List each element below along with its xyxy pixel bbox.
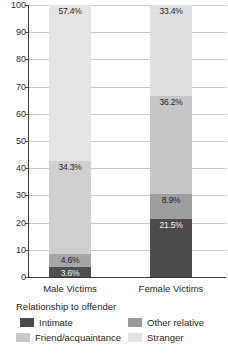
legend-label: Friend/acquaintance — [35, 332, 121, 343]
bar-segment-value-label: 34.3% — [49, 163, 91, 172]
y-tick-label: 80 — [0, 55, 26, 64]
bar-segment[interactable]: 57.4% — [49, 5, 91, 161]
bar-segment-value-label: 57.4% — [49, 7, 91, 16]
bar-segment[interactable]: 36.2% — [150, 96, 192, 194]
bar-segment[interactable]: 34.3% — [49, 161, 91, 254]
plot-area: 1009080706050403020100 57.4%34.3%4.6%3.6… — [0, 0, 228, 282]
y-tick-label: 10 — [0, 245, 26, 254]
legend-title: Relationship to offender — [16, 301, 224, 313]
legend-item[interactable]: Stranger — [128, 331, 183, 343]
y-tick-label: 100 — [0, 1, 26, 10]
bar-segment-value-label: 8.9% — [150, 196, 192, 205]
x-axis-category-labels: Male Victims Female Victims — [29, 283, 226, 297]
bars-layer: 57.4%34.3%4.6%3.6% 33.4%36.2%8.9%21.5% — [29, 5, 226, 277]
bar-segment[interactable]: 21.5% — [150, 219, 192, 277]
category-label-female: Female Victims — [126, 283, 216, 295]
legend-item[interactable]: Friend/acquaintance — [16, 331, 121, 343]
y-tick-label: 40 — [0, 164, 26, 173]
bar-segment[interactable]: 8.9% — [150, 194, 192, 218]
bar-female-victims[interactable]: 33.4%36.2%8.9%21.5% — [150, 5, 192, 277]
bar-segment-value-label: 3.6% — [49, 269, 91, 278]
bar-segment[interactable]: 4.6% — [49, 254, 91, 267]
legend-item[interactable]: Other relative — [128, 316, 204, 328]
bar-segment[interactable]: 33.4% — [150, 5, 192, 96]
legend-label: Stranger — [147, 332, 183, 343]
y-tick-label: 0 — [0, 273, 26, 282]
y-tick-label: 90 — [0, 28, 26, 37]
category-label-male: Male Victims — [25, 283, 115, 295]
y-tick-label: 50 — [0, 137, 26, 146]
y-axis: 1009080706050403020100 — [0, 0, 26, 282]
bar-segment[interactable]: 3.6% — [49, 267, 91, 277]
y-tick-label: 60 — [0, 109, 26, 118]
legend-label: Other relative — [147, 317, 204, 328]
legend-swatch-icon — [128, 333, 142, 342]
stacked-bar-chart: 1009080706050403020100 57.4%34.3%4.6%3.6… — [0, 0, 228, 356]
y-tick-label: 70 — [0, 82, 26, 91]
legend: Relationship to offender IntimateOther r… — [16, 301, 224, 355]
y-tick-label: 30 — [0, 191, 26, 200]
legend-label: Intimate — [39, 317, 73, 328]
bar-male-victims[interactable]: 57.4%34.3%4.6%3.6% — [49, 5, 91, 277]
y-tick-label: 20 — [0, 218, 26, 227]
legend-item[interactable]: Intimate — [20, 316, 73, 328]
legend-swatch-icon — [128, 318, 142, 327]
bar-segment-value-label: 4.6% — [49, 256, 91, 265]
bar-segment-value-label: 21.5% — [150, 221, 192, 230]
bar-segment-value-label: 33.4% — [150, 7, 192, 16]
bar-segment-value-label: 36.2% — [150, 98, 192, 107]
legend-swatch-icon — [20, 318, 34, 327]
legend-swatch-icon — [16, 333, 30, 342]
